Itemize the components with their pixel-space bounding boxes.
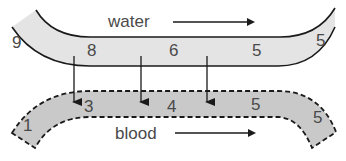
water-label: water: [107, 12, 150, 31]
water-value: 9: [12, 33, 21, 52]
blood-value: 1: [23, 116, 32, 135]
blood-label: blood: [115, 124, 157, 143]
water-value: 8: [87, 41, 96, 60]
water-value: 5: [316, 31, 325, 50]
blood-value: 5: [313, 108, 322, 127]
water-value: 5: [252, 41, 261, 60]
blood-value: 4: [167, 97, 176, 116]
countercurrent-diagram: water blood 9 8 6 5 5 1 3 4 5 5: [0, 0, 346, 161]
water-value: 6: [169, 41, 178, 60]
blood-value: 3: [84, 97, 93, 116]
blood-value: 5: [251, 95, 260, 114]
